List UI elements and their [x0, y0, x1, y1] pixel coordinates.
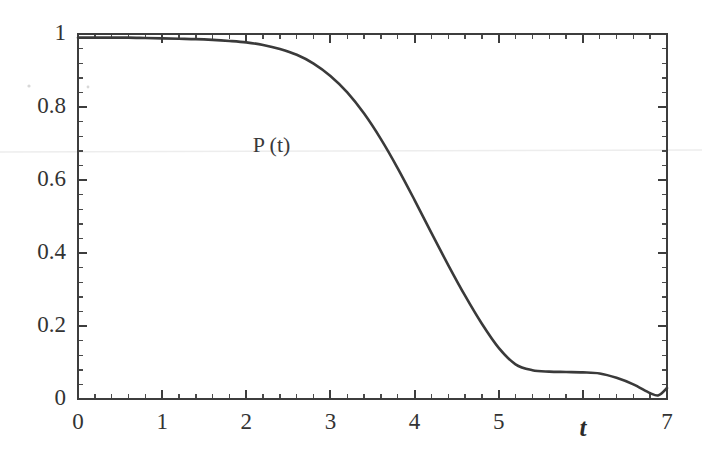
y-axis-tick-labels: 00.20.40.60.81	[37, 20, 66, 410]
scan-fold-line	[0, 150, 702, 152]
frame-rectangle	[78, 34, 667, 399]
scan-speck	[27, 84, 30, 87]
plot-frame	[78, 34, 667, 399]
y-tick-label: 0	[55, 385, 67, 410]
annotation-labels: tP (t)	[253, 132, 588, 441]
chart-figure: 0123457 00.20.40.60.81 tP (t)	[0, 0, 702, 466]
x-tick-label: 7	[661, 409, 673, 434]
y-tick-label: 0.6	[37, 166, 66, 191]
y-tick-label: 0.8	[37, 93, 66, 118]
x-tick-label: 0	[72, 409, 84, 434]
major-tick-marks	[78, 34, 667, 399]
minor-tick-marks	[78, 34, 667, 399]
x-tick-label: 2	[241, 409, 253, 434]
x-tick-label: 3	[325, 409, 337, 434]
y-tick-label: 0.4	[37, 239, 66, 264]
y-tick-label: 1	[55, 20, 67, 45]
data-curve	[78, 38, 667, 396]
scan-speck	[87, 86, 90, 89]
x-tick-label: 4	[409, 409, 421, 434]
data-curve-group	[78, 38, 667, 396]
curve-annotation-label: P (t)	[253, 132, 291, 157]
scan-artifacts	[0, 84, 702, 152]
plot-svg: 0123457 00.20.40.60.81 tP (t)	[0, 0, 702, 466]
x-axis-label: t	[579, 414, 587, 441]
x-tick-label: 5	[493, 409, 505, 434]
x-tick-label: 1	[156, 409, 168, 434]
y-tick-label: 0.2	[37, 312, 66, 337]
